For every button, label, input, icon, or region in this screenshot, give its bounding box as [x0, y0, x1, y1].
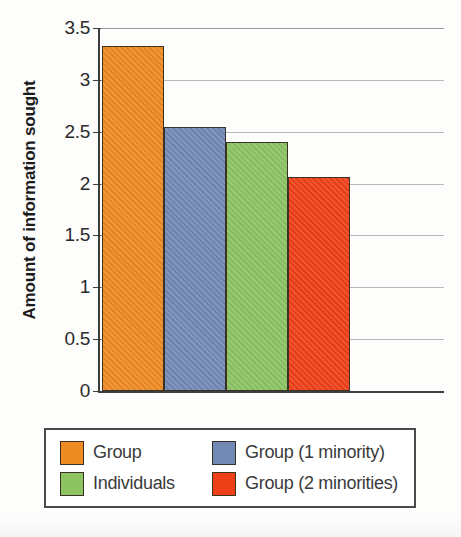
- bar-series: [100, 28, 444, 391]
- y-tick-label: 1: [80, 276, 90, 298]
- bar-texture: [165, 128, 225, 390]
- x-axis-line: [98, 391, 444, 393]
- bar: [226, 142, 288, 391]
- y-tick-label: 2: [80, 173, 90, 195]
- legend-swatch: [60, 472, 84, 496]
- y-tick-label: 1.5: [64, 224, 90, 246]
- legend-swatch: [212, 441, 236, 465]
- legend-item: Group (1 minority): [212, 441, 404, 465]
- legend-label: Group (1 minority): [245, 442, 385, 463]
- bar-texture: [289, 178, 349, 390]
- chart-legend: GroupGroup (1 minority)IndividualsGroup …: [44, 428, 416, 508]
- legend-label: Individuals: [93, 473, 175, 494]
- legend-item: Group: [60, 441, 212, 465]
- y-tick-label: 3: [80, 69, 90, 91]
- bar: [102, 46, 164, 391]
- chart-plot-wrapper: 00.511.522.533.5: [52, 14, 452, 414]
- legend-item: Group (2 minorities): [212, 472, 404, 496]
- legend-grid: GroupGroup (1 minority)IndividualsGroup …: [60, 437, 404, 499]
- scan-edge-artifact: [0, 515, 461, 537]
- legend-swatch: [212, 472, 236, 496]
- legend-item: Individuals: [60, 472, 212, 496]
- plot-area: [98, 28, 444, 391]
- y-tick-label: 3.5: [64, 17, 90, 39]
- bar-texture: [227, 143, 287, 390]
- bar: [164, 127, 226, 391]
- legend-swatch: [60, 441, 84, 465]
- y-axis-title: Amount of information sought: [10, 0, 50, 400]
- y-tick-label: 2.5: [64, 121, 90, 143]
- bar-texture: [103, 47, 163, 390]
- legend-label: Group: [93, 442, 142, 463]
- y-axis-title-text: Amount of information sought: [20, 81, 40, 320]
- bar: [288, 177, 350, 391]
- legend-label: Group (2 minorities): [245, 473, 398, 494]
- y-axis-tick-labels: 00.511.522.533.5: [52, 14, 94, 414]
- chart-page: Amount of information sought 00.511.522.…: [0, 0, 461, 537]
- y-tick-label: 0: [80, 380, 90, 402]
- y-tick-label: 0.5: [64, 328, 90, 350]
